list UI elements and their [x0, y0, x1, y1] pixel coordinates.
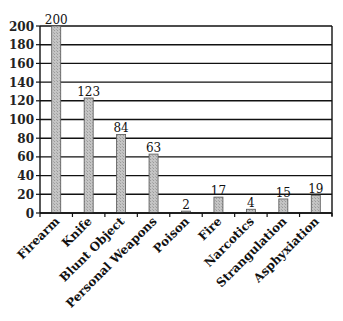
y-tick-label: 120 — [9, 94, 34, 108]
bar-asphyxiation — [311, 195, 320, 213]
y-tick-label: 160 — [9, 57, 34, 71]
x-tick-label: Firearm — [14, 214, 62, 262]
data-label: 63 — [146, 141, 161, 155]
x-tick-label: Fire — [196, 214, 225, 243]
data-label: 17 — [211, 184, 226, 198]
bar-firearm — [52, 26, 61, 213]
data-label: 84 — [113, 121, 129, 135]
bar-strangulation — [279, 199, 288, 213]
x-axis: FirearmKnifeBlunt ObjectPersonal Weapons… — [14, 213, 332, 311]
data-label: 200 — [45, 13, 68, 27]
y-tick-label: 140 — [9, 76, 34, 90]
y-tick-label: 100 — [9, 113, 34, 127]
y-tick-label: 40 — [17, 169, 34, 183]
bar-chart: 020406080100120140160180200 200123846321… — [0, 0, 343, 321]
y-tick-label: 60 — [17, 150, 34, 164]
y-tick-label: 0 — [26, 207, 34, 221]
x-tick-label: Poison — [151, 214, 193, 256]
bars: 200123846321741519 — [45, 13, 324, 213]
bar-blunt-object — [117, 134, 126, 213]
bar-fire — [214, 197, 223, 213]
data-label: 2 — [182, 198, 190, 212]
data-label: 123 — [77, 85, 100, 99]
y-tick-label: 200 — [9, 20, 34, 34]
y-tick-label: 20 — [17, 188, 34, 202]
data-label: 4 — [247, 196, 255, 210]
data-label: 15 — [276, 186, 291, 200]
data-label: 19 — [308, 182, 323, 196]
y-tick-label: 80 — [17, 132, 34, 146]
bar-personal-weapons — [149, 154, 158, 213]
y-tick-label: 180 — [9, 38, 34, 52]
bar-knife — [84, 98, 93, 213]
